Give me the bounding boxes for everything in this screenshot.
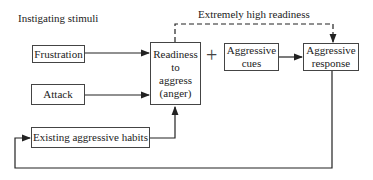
extremely-high-readiness-label: Extremely high readiness <box>198 8 310 20</box>
response-line-1: Aggressive <box>306 44 356 57</box>
frustration-label: Frustration <box>34 48 82 61</box>
readiness-line-2: to <box>171 61 180 74</box>
aggressive-response-node: Aggressive response <box>303 43 359 71</box>
readiness-line-3: aggress <box>159 74 192 87</box>
attack-node: Attack <box>31 84 85 105</box>
readiness-line-1: Readiness <box>153 48 198 61</box>
existing-habits-node: Existing aggressive habits <box>31 127 150 148</box>
plus-sign: + <box>206 45 217 65</box>
cues-line-2: cues <box>242 57 262 70</box>
aggressive-cues-node: Aggressive cues <box>224 43 279 71</box>
instigating-stimuli-label: Instigating stimuli <box>18 12 98 24</box>
habits-label: Existing aggressive habits <box>33 131 148 144</box>
cues-line-1: Aggressive <box>227 44 277 57</box>
readiness-line-4: (anger) <box>160 87 192 100</box>
response-line-2: response <box>312 57 351 70</box>
attack-label: Attack <box>43 88 72 101</box>
frustration-node: Frustration <box>32 45 85 63</box>
readiness-node: Readiness to aggress (anger) <box>150 42 201 105</box>
